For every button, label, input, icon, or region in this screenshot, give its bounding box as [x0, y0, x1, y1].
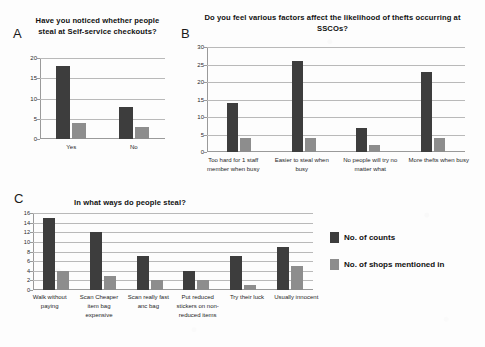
- legend-swatch-icon-shops: [330, 259, 339, 270]
- bar-groups-a: [40, 58, 165, 139]
- bar-shops: [72, 123, 86, 139]
- bar-counts: [356, 128, 367, 153]
- bar-counts: [56, 66, 70, 139]
- y-axis-tick: [37, 139, 40, 140]
- y-axis-tick-label: 25: [197, 62, 204, 68]
- y-axis-tick: [30, 290, 33, 291]
- chart-panel-c: C In what ways do people steal? 02468101…: [0, 190, 485, 347]
- bar-groups-c: [33, 213, 313, 290]
- bar-counts: [421, 72, 432, 153]
- x-axis-category-label: Walk without paying: [25, 293, 74, 320]
- panel-letter-a: A: [13, 26, 22, 41]
- chart-panel-a: A Have you noticed whether people steal …: [0, 0, 175, 190]
- chart-title-c: In what ways do people steal?: [40, 198, 220, 209]
- bar-group: [126, 213, 173, 290]
- bar-shops: [240, 138, 251, 152]
- bar-group: [40, 58, 103, 139]
- legend-label-counts: No. of counts: [344, 233, 395, 242]
- plot-area-c: 0246810121416: [33, 213, 313, 290]
- y-axis-tick-label: 30: [197, 44, 204, 50]
- legend-entry-shops: No. of shops mentioned in: [330, 259, 444, 270]
- bar-counts: [183, 271, 195, 290]
- bar-group: [401, 47, 466, 152]
- bar-shops: [291, 266, 303, 290]
- y-axis-tick-label: 20: [30, 55, 37, 61]
- x-axis-category-label: No: [103, 143, 166, 152]
- bar-group: [103, 58, 166, 139]
- x-axis-labels-a: YesNo: [40, 143, 165, 152]
- x-axis-category-label: Put reduced stickers on non-reduced item…: [173, 293, 222, 320]
- bar-shops: [151, 280, 163, 290]
- x-axis-category-label: Scan really fast anc bag: [124, 293, 173, 320]
- bar-shops: [197, 280, 209, 290]
- x-axis-category-label: Scan Cheaper item bag expensive: [74, 293, 123, 320]
- bar-group: [336, 47, 401, 152]
- x-axis-category-label: Yes: [40, 143, 103, 152]
- x-axis-labels-c: Walk without payingScan Cheaper item bag…: [25, 293, 321, 320]
- bar-counts: [292, 61, 303, 152]
- y-axis-tick-label: 15: [197, 97, 204, 103]
- panel-letter-c: C: [14, 191, 23, 206]
- legend-label-shops: No. of shops mentioned in: [344, 260, 444, 269]
- bar-shops: [434, 138, 445, 152]
- x-axis-category-label: Easier to steal when busy: [268, 156, 337, 174]
- bar-shops: [244, 285, 256, 290]
- bar-shops: [305, 138, 316, 152]
- y-axis-tick-label: 10: [197, 114, 204, 120]
- panel-letter-b: B: [181, 26, 190, 41]
- bar-counts: [90, 232, 102, 290]
- x-axis-category-label: More thefts when busy: [405, 156, 474, 174]
- plot-area-b: 051015202530: [207, 47, 465, 152]
- bar-counts: [230, 256, 242, 290]
- plot-area-a: 05101520: [40, 58, 165, 139]
- x-axis-category-label: Try their luck: [222, 293, 271, 320]
- bar-counts: [43, 218, 55, 290]
- y-axis-tick: [204, 152, 207, 153]
- bar-group: [33, 213, 80, 290]
- bar-shops: [369, 145, 380, 152]
- bar-group: [272, 47, 337, 152]
- bar-group: [173, 213, 220, 290]
- chart-title-a: Have you noticed whether people steal at…: [30, 16, 165, 38]
- chart-title-b: Do you feel various factors affect the l…: [195, 13, 470, 35]
- chart-panel-b: B Do you feel various factors affect the…: [175, 0, 485, 195]
- chart-legend: No. of counts No. of shops mentioned in: [330, 232, 444, 286]
- bar-groups-b: [207, 47, 465, 152]
- x-axis-category-label: Too hard for 1 staff member when busy: [199, 156, 268, 174]
- bar-group: [207, 47, 272, 152]
- y-axis-tick-label: 20: [197, 79, 204, 85]
- legend-swatch-icon-counts: [330, 232, 339, 243]
- bar-shops: [104, 276, 116, 290]
- bar-counts: [137, 256, 149, 290]
- x-axis-category-label: Usually innocent: [272, 293, 321, 320]
- bar-group: [220, 213, 267, 290]
- y-axis-tick-label: 15: [30, 75, 37, 81]
- bar-shops: [57, 271, 69, 290]
- bar-group: [80, 213, 127, 290]
- x-axis-labels-b: Too hard for 1 staff member when busyEas…: [199, 156, 473, 174]
- legend-entry-counts: No. of counts: [330, 232, 444, 243]
- bar-shops: [135, 127, 149, 139]
- bar-counts: [119, 107, 133, 139]
- y-axis-tick-label: 10: [30, 96, 37, 102]
- bar-group: [266, 213, 313, 290]
- bar-counts: [277, 247, 289, 290]
- bar-counts: [227, 103, 238, 152]
- x-axis-category-label: No people will try no matter what: [336, 156, 405, 174]
